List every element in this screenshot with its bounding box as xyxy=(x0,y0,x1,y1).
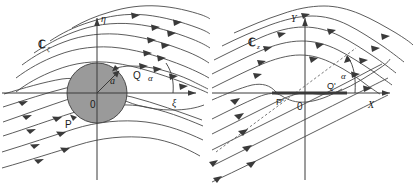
eta-axis-label: η xyxy=(101,13,106,24)
streamline-arrowheads-z xyxy=(209,13,390,183)
streamlines-z-lower xyxy=(212,59,390,182)
alpha-label-zeta: α xyxy=(148,73,153,83)
X-axis-arrowhead xyxy=(382,90,390,96)
Y-axis-arrowhead xyxy=(302,18,308,26)
zeta-domain-label: ℂ xyxy=(38,38,46,50)
xi-axis-arrowhead xyxy=(188,90,196,96)
z-domain-subscript: z xyxy=(256,43,260,51)
zeta-domain-subscript: ζ xyxy=(47,45,51,53)
z-domain-label: ℂ xyxy=(248,36,256,48)
radius-label: a xyxy=(110,75,115,86)
q-prime-label: Q' xyxy=(327,81,336,91)
flow-diagram: ℂ ζ ξ η 0 a Q P α xyxy=(0,0,420,187)
streamline-arrowheads-zeta-lower xyxy=(18,101,70,164)
X-axis-label: X xyxy=(367,99,375,110)
panel-zeta-plane: ℂ ζ ξ η 0 a Q P α xyxy=(2,6,210,180)
streamlines-z-upper xyxy=(212,6,413,100)
figure-container: ℂ ζ ξ η 0 a Q P α xyxy=(0,0,420,187)
alpha-label-z: α xyxy=(341,71,346,81)
q-point-label: Q xyxy=(133,70,141,81)
panel-z-plane: ℂ z X Y 0 P' Q' α xyxy=(209,6,413,183)
zeta-origin-label: 0 xyxy=(90,99,96,110)
p-point-label: P xyxy=(65,119,72,130)
Y-axis-label: Y xyxy=(291,13,298,24)
p-prime-label: P' xyxy=(276,97,284,107)
xi-axis-label: ξ xyxy=(172,97,177,109)
z-origin-label: 0 xyxy=(297,101,303,112)
